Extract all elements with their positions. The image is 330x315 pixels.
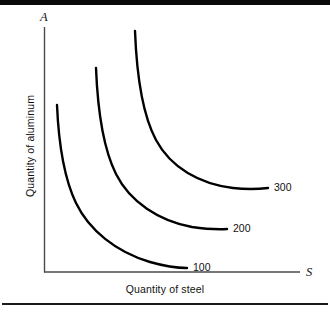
- curve-label-100: 100: [193, 261, 211, 273]
- y-axis-letter: A: [39, 10, 48, 24]
- curve-label-200: 200: [233, 222, 251, 234]
- x-axis-title: Quantity of steel: [0, 283, 330, 295]
- isoquant-curve-100: [57, 105, 187, 268]
- isoquant-plot: A S 100 200 300: [0, 0, 330, 315]
- x-axis-letter: S: [306, 265, 313, 279]
- isoquant-curve-300: [135, 31, 268, 189]
- curve-label-300: 300: [274, 181, 292, 193]
- figure-container: A S 100 200 300 Quantity of aluminum Qua…: [0, 0, 330, 315]
- y-axis-title: Quantity of aluminum: [24, 56, 36, 236]
